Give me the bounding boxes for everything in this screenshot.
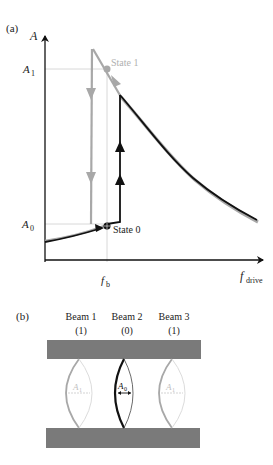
svg-text:b: b xyxy=(106,280,110,289)
svg-text:A: A xyxy=(22,63,30,75)
svg-text:(1): (1) xyxy=(75,325,87,337)
black-up-arrow-1 xyxy=(115,141,125,152)
state1-label: State 1 xyxy=(111,57,139,68)
black-up-arrow-2 xyxy=(115,174,125,185)
beam-3-header: Beam 3 (1) xyxy=(159,311,190,337)
black-upper-branch xyxy=(120,95,257,220)
svg-text:(1): (1) xyxy=(168,325,180,337)
svg-text:(0): (0) xyxy=(121,325,133,337)
panel-b-label: (b) xyxy=(16,310,29,323)
black-arrow-to-state0 xyxy=(95,224,104,232)
panel-a: (a) A f drive A 1 A 0 f b xyxy=(6,22,263,289)
beam-1-header: Beam 1 (1) xyxy=(66,311,97,337)
state0-label: State 0 xyxy=(113,224,141,235)
svg-text:1: 1 xyxy=(79,387,82,393)
figure-canvas: (a) A f drive A 1 A 0 f b xyxy=(0,0,273,465)
svg-text:Beam 3: Beam 3 xyxy=(159,311,190,322)
gray-upper-branch xyxy=(121,97,258,222)
panel-b: (b) Beam 1 (1) Beam 2 (0) Beam 3 (1) A 1 xyxy=(16,310,201,448)
svg-text:A: A xyxy=(72,382,79,392)
beam-2-header: Beam 2 (0) xyxy=(112,311,143,337)
svg-text:0: 0 xyxy=(124,386,127,392)
gray-down-arrow-2 xyxy=(86,172,96,184)
bottom-clamp-bar xyxy=(46,428,200,448)
tick-a1: A 1 xyxy=(22,63,35,78)
svg-text:1: 1 xyxy=(172,387,175,393)
beam-3: A 1 xyxy=(159,359,185,428)
svg-text:A: A xyxy=(21,218,29,230)
state0-dot xyxy=(104,223,111,230)
svg-text:drive: drive xyxy=(246,276,263,285)
svg-text:Beam 2: Beam 2 xyxy=(112,311,143,322)
top-clamp-bar xyxy=(47,340,201,359)
svg-text:A: A xyxy=(117,381,124,391)
state1-dot xyxy=(104,66,111,73)
beam-1: A 1 xyxy=(66,359,92,428)
y-axis-label: A xyxy=(29,29,38,43)
tick-a0: A 0 xyxy=(21,218,34,233)
black-jump-line xyxy=(107,95,120,224)
panel-a-label: (a) xyxy=(6,22,19,35)
svg-text:Beam 1: Beam 1 xyxy=(66,311,97,322)
tick-fb: f b xyxy=(101,274,110,289)
gray-lower-branch xyxy=(45,226,104,241)
gray-arrow-to-state1 xyxy=(111,75,121,87)
x-axis-label: f drive xyxy=(240,269,263,285)
svg-text:f: f xyxy=(240,269,245,283)
gray-down-arrow-1 xyxy=(86,88,96,100)
svg-text:1: 1 xyxy=(31,69,35,78)
svg-text:0: 0 xyxy=(30,224,34,233)
svg-text:A: A xyxy=(165,382,172,392)
beam-2: A 0 xyxy=(115,359,133,428)
gray-drop-line xyxy=(91,49,92,224)
